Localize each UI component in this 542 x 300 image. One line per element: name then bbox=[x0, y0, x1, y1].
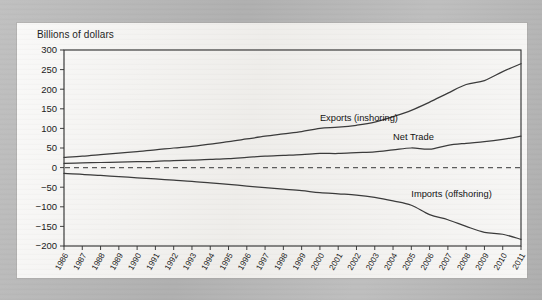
x-axis-tick-label: 2006 bbox=[419, 251, 436, 272]
x-axis-tick-label: 1989 bbox=[108, 251, 125, 272]
x-axis-tick-label: 1987 bbox=[72, 251, 89, 272]
x-axis-tick-label: 1988 bbox=[90, 251, 107, 272]
x-axis-tick-label: 1998 bbox=[273, 251, 290, 272]
series-annotation-label: Net Trade bbox=[393, 132, 434, 142]
x-axis-tick-label: 1994 bbox=[200, 251, 217, 272]
chart-panel: Billions of dollars 300250200150100500−5… bbox=[17, 23, 527, 278]
y-axis-tick-label: 250 bbox=[41, 64, 57, 75]
x-axis-tick-label: 1992 bbox=[163, 251, 180, 272]
x-axis-tick-label: 2000 bbox=[309, 251, 326, 272]
y-axis-tick-label: 300 bbox=[41, 44, 57, 55]
x-axis-tick-label: 2010 bbox=[492, 251, 509, 272]
x-axis-tick-label: 2005 bbox=[401, 251, 418, 272]
series-annotation-label: Imports (offshoring) bbox=[411, 189, 491, 199]
y-axis-tick-label: 200 bbox=[41, 84, 57, 95]
x-axis-tick-label: 1997 bbox=[254, 251, 271, 272]
y-axis-tick-label: −50 bbox=[41, 182, 57, 193]
x-axis-tick-label: 1991 bbox=[145, 251, 162, 272]
y-axis-tick-label: 100 bbox=[41, 123, 57, 134]
series-annotation-label: Exports (inshoring) bbox=[320, 113, 398, 123]
x-axis-tick-label: 2011 bbox=[511, 251, 527, 271]
scanned-page: Billions of dollars 300250200150100500−5… bbox=[0, 0, 542, 300]
x-axis-tick-label: 1999 bbox=[291, 251, 308, 272]
y-axis-tick-label: −100 bbox=[36, 201, 57, 212]
x-axis-tick-label: 1990 bbox=[126, 251, 143, 272]
x-axis-tick-label: 1996 bbox=[236, 251, 253, 272]
y-axis-tick-label: −150 bbox=[36, 221, 57, 232]
x-axis-tick-label: 1986 bbox=[53, 251, 70, 272]
y-axis-tick-label: 150 bbox=[41, 103, 57, 114]
line-chart: 300250200150100500−50−100−150−2001986198… bbox=[17, 23, 527, 278]
plot-frame bbox=[64, 50, 521, 246]
x-axis-tick-label: 2007 bbox=[437, 251, 454, 272]
series-line bbox=[64, 136, 521, 163]
x-axis-tick-label: 2008 bbox=[455, 251, 472, 272]
x-axis-tick-label: 2009 bbox=[474, 251, 491, 272]
y-axis-tick-label: −200 bbox=[36, 240, 57, 251]
x-axis-tick-label: 1995 bbox=[218, 251, 235, 272]
x-axis-tick-label: 2001 bbox=[328, 251, 345, 272]
y-axis-tick-label: 50 bbox=[46, 142, 57, 153]
series-line bbox=[64, 173, 521, 239]
x-axis-tick-label: 2004 bbox=[382, 251, 399, 272]
x-axis-tick-label: 1993 bbox=[181, 251, 198, 272]
series-line bbox=[64, 64, 521, 158]
y-axis-tick-label: 0 bbox=[52, 162, 57, 173]
x-axis-tick-label: 2002 bbox=[346, 251, 363, 272]
x-axis-tick-label: 2003 bbox=[364, 251, 381, 272]
